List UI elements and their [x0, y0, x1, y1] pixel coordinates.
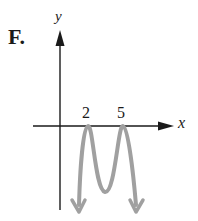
x-axis-arrow-icon: [158, 122, 174, 131]
function-curve: [79, 126, 136, 205]
y-axis-arrow-icon: [56, 30, 65, 46]
graph-canvas: [0, 0, 198, 221]
